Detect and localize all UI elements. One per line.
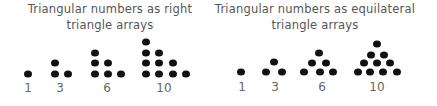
count-label-10: 10 (369, 80, 384, 94)
count-label-1: 1 (238, 80, 246, 94)
dot (142, 39, 150, 46)
dot (316, 69, 324, 76)
title-line-1: Triangular numbers as right (0, 2, 220, 16)
title-line-2: triangle arrays (0, 18, 220, 32)
dot (270, 59, 278, 66)
dot (360, 60, 368, 67)
dot (51, 71, 59, 78)
dot (262, 69, 270, 76)
right-triangle-panel: Triangular numbers as right triangle arr… (0, 0, 220, 106)
count-label-3: 3 (56, 81, 64, 95)
dot (278, 69, 286, 76)
dot (117, 71, 125, 78)
panel-title: Triangular numbers as equilateral triang… (205, 2, 425, 32)
title-line-1: Triangular numbers as equilateral (205, 2, 425, 16)
dot (386, 60, 394, 67)
dot (155, 71, 163, 78)
dot (366, 69, 374, 76)
dot (155, 60, 163, 67)
dot (379, 69, 387, 76)
dot (373, 41, 381, 48)
dot (354, 69, 362, 76)
title-line-2: triangle arrays (205, 18, 425, 32)
count-label-6: 6 (103, 81, 111, 95)
dot (322, 60, 330, 67)
dot (142, 60, 150, 67)
dot (169, 71, 177, 78)
dot (308, 60, 316, 67)
dot (237, 69, 245, 76)
dot (155, 50, 163, 57)
dot (104, 71, 112, 78)
dot (393, 69, 401, 76)
dot (24, 71, 32, 78)
dot (315, 50, 323, 57)
dot (300, 69, 308, 76)
dot (104, 60, 112, 67)
dot (182, 71, 190, 78)
dot (142, 50, 150, 57)
count-label-10: 10 (156, 81, 171, 95)
equilateral-triangle-panel: Triangular numbers as equilateral triang… (217, 0, 437, 106)
dot (367, 52, 375, 59)
panel-title: Triangular numbers as right triangle arr… (0, 2, 220, 32)
dot (380, 52, 388, 59)
count-label-3: 3 (271, 80, 279, 94)
dot (373, 60, 381, 67)
dot (91, 71, 99, 78)
dot (91, 50, 99, 57)
dot (51, 60, 59, 67)
count-label-1: 1 (24, 81, 32, 95)
dot (329, 69, 337, 76)
dot (91, 60, 99, 67)
count-label-6: 6 (318, 80, 326, 94)
dot (64, 71, 72, 78)
dot (142, 71, 150, 78)
dot (169, 60, 177, 67)
